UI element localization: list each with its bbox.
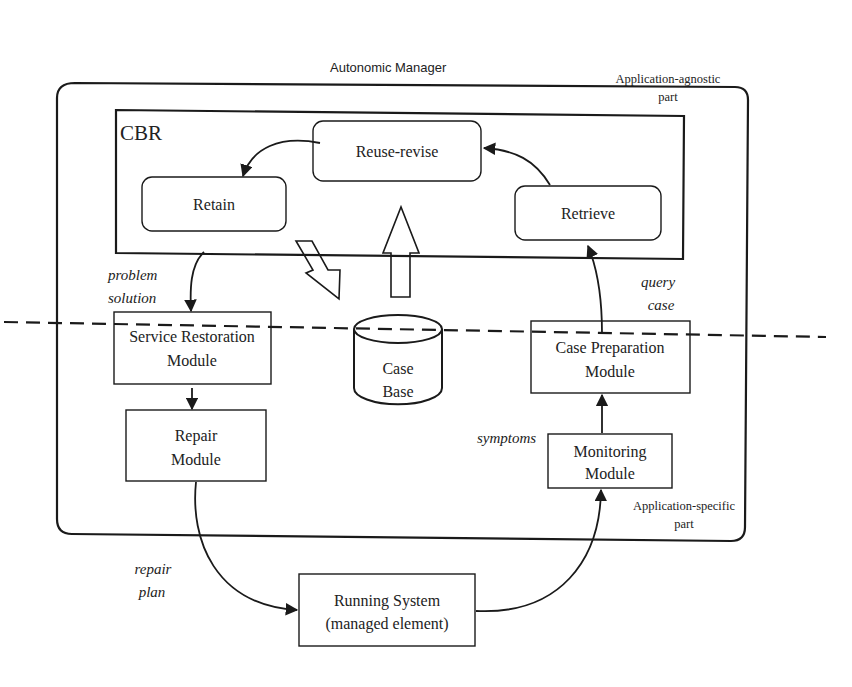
cbr-label: CBR xyxy=(120,121,162,145)
case-preparation-label-line2: Module xyxy=(585,363,635,380)
query-case-label-line1: query xyxy=(641,274,675,290)
agnostic-specific-divider xyxy=(4,322,826,337)
service-restoration-module xyxy=(114,312,271,384)
problem-solution-label-line2: solution xyxy=(108,290,156,306)
running-system-label-line1: Running System xyxy=(334,592,441,610)
retain-label: Retain xyxy=(193,196,235,213)
running-system-label-line2: (managed element) xyxy=(325,615,448,633)
repair-module xyxy=(126,410,266,481)
repair-module-label-line1: Repair xyxy=(175,427,218,445)
running-system-box xyxy=(299,574,475,646)
reuse-revise-label: Reuse-revise xyxy=(356,143,439,160)
retrieve-label: Retrieve xyxy=(561,205,615,222)
repair-module-label-line2: Module xyxy=(171,451,221,468)
case-preparation-label-line1: Case Preparation xyxy=(556,339,665,357)
repair-plan-label-line2: plan xyxy=(138,584,166,600)
service-restoration-label-line1: Service Restoration xyxy=(129,328,255,345)
autonomic-manager-title: Autonomic Manager xyxy=(330,60,447,75)
store-case-lightning-arrow xyxy=(296,241,340,299)
query-case-label-line2: case xyxy=(648,297,675,313)
monitoring-label-line1: Monitoring xyxy=(574,443,647,461)
service-restoration-label-line2: Module xyxy=(167,352,217,369)
retrieve-to-reuse-arrow xyxy=(484,148,550,185)
application-agnostic-label: Application-agnostic xyxy=(616,72,721,86)
repair-plan-label-line1: repair xyxy=(135,561,172,577)
monitoring-label-line2: Module xyxy=(585,465,635,482)
symptoms-label: symptoms xyxy=(477,430,536,446)
cbr-autonomic-manager-diagram: Autonomic Manager Application-agnostic p… xyxy=(0,0,852,687)
running-system-to-monitoring-arrow xyxy=(476,490,601,611)
retain-to-service-restoration-arrow xyxy=(191,252,204,311)
case-base-label-line1: Case xyxy=(382,360,413,377)
retrieve-cases-block-arrow xyxy=(383,207,419,297)
cbr-container xyxy=(116,110,684,259)
application-agnostic-part-label: part xyxy=(658,90,678,104)
case-base-label-line2: Base xyxy=(382,383,413,400)
problem-solution-label-line1: problem xyxy=(107,267,158,283)
reuse-to-retain-arrow xyxy=(243,141,320,176)
application-specific-part-label: part xyxy=(674,517,694,531)
application-specific-label: Application-specific xyxy=(633,499,735,513)
repair-to-running-system-arrow xyxy=(195,482,297,610)
